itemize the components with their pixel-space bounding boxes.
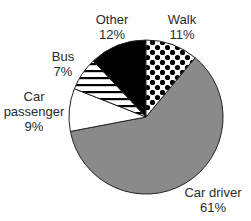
label-walk-name: Walk <box>162 12 202 27</box>
label-car-passenger-pct: 9% <box>2 119 66 134</box>
label-car-passenger-line2: passenger <box>2 104 66 119</box>
label-other-name: Other <box>92 12 132 27</box>
label-bus-name: Bus <box>48 49 78 64</box>
label-bus: Bus 7% <box>48 49 78 79</box>
label-car-passenger: Car passenger 9% <box>2 89 66 134</box>
label-other: Other 12% <box>92 12 132 42</box>
label-car-passenger-line1: Car <box>2 89 66 104</box>
label-bus-pct: 7% <box>48 64 78 79</box>
label-car-driver-pct: 61% <box>178 200 248 215</box>
label-walk-pct: 11% <box>162 27 202 42</box>
label-walk: Walk 11% <box>162 12 202 42</box>
label-other-pct: 12% <box>92 27 132 42</box>
label-car-driver-name: Car driver <box>178 185 248 200</box>
label-car-driver: Car driver 61% <box>178 185 248 215</box>
